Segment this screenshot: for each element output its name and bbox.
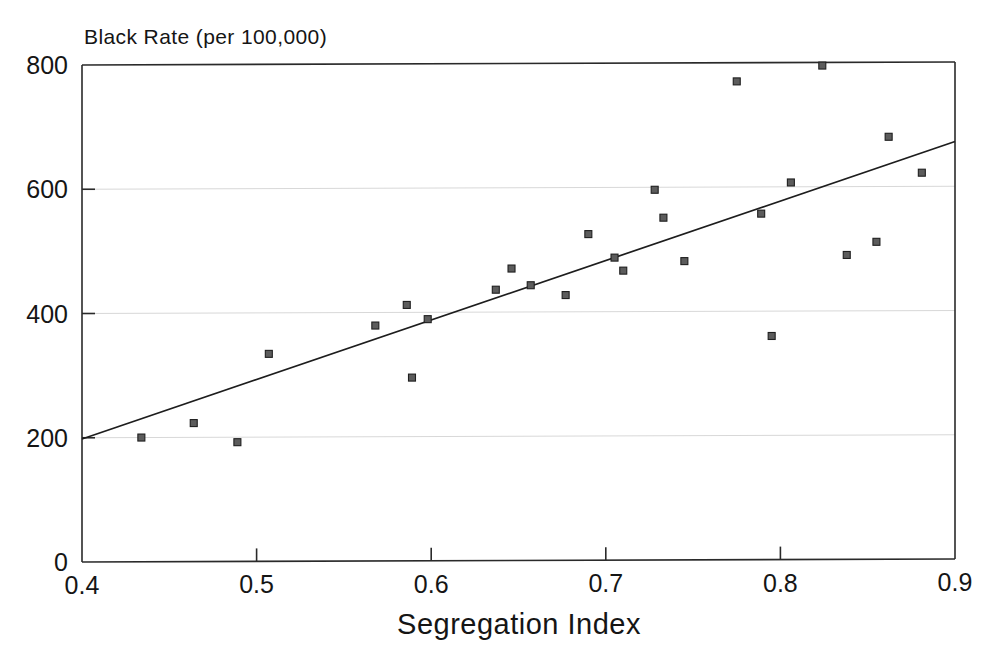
plot-background: [0, 0, 999, 665]
data-point: [873, 238, 880, 245]
data-point: [885, 133, 892, 140]
data-point: [403, 301, 410, 308]
data-point: [372, 322, 379, 329]
plot-canvas: 0200400600800 0.40.50.60.70.80.9 Black R…: [0, 0, 999, 665]
y-tick-label-200: 200: [26, 424, 68, 452]
y-tick-label-400: 400: [26, 300, 68, 328]
data-point: [424, 316, 431, 323]
data-point: [234, 439, 241, 446]
data-point: [585, 231, 592, 238]
data-point: [611, 254, 618, 261]
x-tick-label-0.9: 0.9: [938, 568, 973, 596]
data-point: [918, 169, 925, 176]
data-point: [819, 62, 826, 69]
y-tick-label-800: 800: [26, 51, 68, 79]
x-tick-label-0.5: 0.5: [239, 570, 274, 598]
y-axis-title: Black Rate (per 100,000): [84, 25, 327, 48]
data-point: [138, 434, 145, 441]
x-tick-label-0.4: 0.4: [65, 571, 100, 599]
data-point: [508, 265, 515, 272]
data-point: [758, 210, 765, 217]
x-tick-label-0.7: 0.7: [588, 569, 623, 597]
data-point: [681, 258, 688, 265]
y-tick-label-600: 600: [26, 175, 68, 203]
data-point: [651, 186, 658, 193]
data-point: [562, 292, 569, 299]
data-point: [843, 251, 850, 258]
x-tick-label-0.8: 0.8: [763, 569, 798, 597]
data-point: [265, 350, 272, 357]
data-point: [787, 179, 794, 186]
x-tick-label-0.6: 0.6: [414, 570, 449, 598]
data-point: [733, 78, 740, 85]
scatter-plot-figure: 0200400600800 0.40.50.60.70.80.9 Black R…: [0, 0, 999, 665]
data-point: [620, 267, 627, 274]
data-point: [527, 282, 534, 289]
x-axis-title: Segregation Index: [397, 608, 641, 640]
data-point: [768, 332, 775, 339]
data-point: [408, 374, 415, 381]
data-point: [190, 420, 197, 427]
data-point: [660, 214, 667, 221]
data-point: [492, 286, 499, 293]
